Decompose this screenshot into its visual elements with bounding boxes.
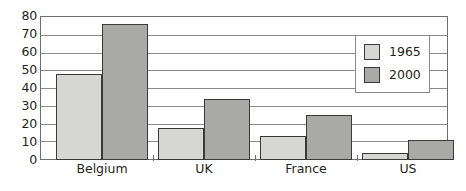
y-axis-tick-label: 30 bbox=[1, 100, 37, 113]
y-axis-tick-label: 80 bbox=[1, 10, 37, 23]
bar-france-2000 bbox=[306, 115, 352, 160]
y-axis-tick-label: 0 bbox=[1, 154, 37, 167]
y-axis-tick-label: 10 bbox=[1, 136, 37, 149]
y-axis-tick-label: 70 bbox=[1, 28, 37, 41]
y-axis-tick-label: 40 bbox=[1, 82, 37, 95]
x-axis: Belgium UK France US bbox=[40, 163, 448, 187]
x-axis-tick bbox=[357, 155, 358, 161]
x-axis-category-label: France bbox=[285, 163, 327, 176]
y-axis-tick-label: 20 bbox=[1, 118, 37, 131]
x-axis-tick bbox=[255, 155, 256, 161]
legend-item-2000: 2000 bbox=[364, 67, 421, 83]
y-axis: 80 70 60 50 40 30 20 10 0 bbox=[0, 16, 37, 160]
legend-item-1965: 1965 bbox=[364, 44, 421, 60]
bar-belgium-1965 bbox=[56, 74, 102, 160]
y-axis-tick-label: 60 bbox=[1, 46, 37, 59]
legend-swatch-icon bbox=[364, 67, 380, 83]
y-axis-tick-label: 50 bbox=[1, 64, 37, 77]
legend-label: 2000 bbox=[389, 69, 421, 82]
bar-france-1965 bbox=[260, 136, 306, 160]
bar-uk-1965 bbox=[158, 128, 204, 160]
bar-belgium-2000 bbox=[102, 24, 148, 160]
x-axis-tick bbox=[153, 155, 154, 161]
x-axis-category-label: Belgium bbox=[76, 163, 127, 176]
legend: 1965 2000 bbox=[355, 35, 430, 93]
bar-us-1965 bbox=[362, 153, 408, 160]
legend-label: 1965 bbox=[389, 46, 421, 59]
bar-chart: 80 70 60 50 40 30 20 10 0 bbox=[0, 0, 466, 191]
x-axis-category-label: US bbox=[399, 163, 416, 176]
bar-us-2000 bbox=[408, 140, 454, 160]
bar-uk-2000 bbox=[204, 99, 250, 160]
x-axis-category-label: UK bbox=[195, 163, 212, 176]
legend-swatch-icon bbox=[364, 44, 380, 60]
